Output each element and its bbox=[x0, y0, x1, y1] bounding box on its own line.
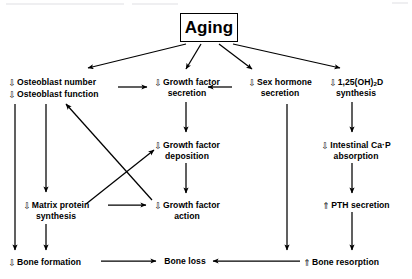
node-matrix-protein-line1: ⇩Matrix protein bbox=[6, 199, 106, 211]
node-osteoblast: ⇩Osteoblast number ⇩Osteoblast function bbox=[8, 76, 99, 100]
decrease-icon: ⇩ bbox=[154, 77, 161, 88]
decrease-icon: ⇩ bbox=[248, 77, 255, 88]
node-intestinal-absorption-line1: ⇩Intestinal Ca·P bbox=[310, 139, 402, 151]
decrease-icon: ⇩ bbox=[154, 140, 161, 151]
node-gf-deposition: ⇩Growth factor deposition bbox=[146, 139, 228, 162]
node-intestinal-absorption-line1-text: Intestinal Ca·P bbox=[330, 140, 390, 150]
node-bone-resorption-line1: ⇑Bone resorption bbox=[303, 256, 379, 268]
node-vitamin-d-formula-sub: 2 bbox=[373, 80, 377, 87]
node-vitamin-d: ⇩1,25(OH)2D synthesis bbox=[318, 76, 394, 99]
node-aging: Aging bbox=[180, 13, 238, 42]
increase-icon: ⇑ bbox=[303, 257, 310, 268]
node-sex-hormone-line2: secretion bbox=[240, 88, 320, 99]
node-bone-formation-line1: ⇩Bone formation bbox=[8, 256, 81, 268]
node-bone-formation-text: Bone formation bbox=[17, 257, 81, 267]
node-bone-loss: Bone loss bbox=[158, 256, 212, 267]
node-bone-resorption: ⇑Bone resorption bbox=[303, 256, 379, 268]
node-gf-deposition-line2: deposition bbox=[146, 151, 228, 162]
edge-aging-osteoblast bbox=[88, 44, 186, 68]
node-osteoblast-line1-text: Osteoblast number bbox=[17, 77, 96, 87]
node-vitamin-d-formula-a: 1,25(OH) bbox=[338, 77, 374, 87]
node-gf-action-line2: action bbox=[146, 211, 228, 222]
node-vitamin-d-line1: ⇩1,25(OH)2D bbox=[318, 76, 394, 88]
edge-matrixprotein-gfdeposition bbox=[86, 150, 154, 204]
decrease-icon: ⇩ bbox=[8, 77, 15, 88]
node-gf-action: ⇩Growth factor action bbox=[146, 199, 228, 222]
node-sex-hormone-line1: ⇩Sex hormone bbox=[240, 76, 320, 88]
node-bone-resorption-text: Bone resorption bbox=[312, 257, 379, 267]
decrease-icon: ⇩ bbox=[329, 77, 336, 88]
node-aging-label: Aging bbox=[185, 19, 234, 36]
node-matrix-protein-line2: synthesis bbox=[6, 211, 106, 222]
node-gf-deposition-line1: ⇩Growth factor bbox=[146, 139, 228, 151]
node-intestinal-absorption: ⇩Intestinal Ca·P absorption bbox=[310, 139, 402, 162]
node-bone-formation: ⇩Bone formation bbox=[8, 256, 81, 268]
increase-icon: ⇑ bbox=[323, 200, 330, 211]
node-pth-secretion: ⇑PTH secretion bbox=[310, 199, 402, 211]
node-osteoblast-line2-text: Osteoblast function bbox=[17, 89, 99, 99]
decrease-icon: ⇩ bbox=[8, 257, 15, 268]
edge-aging-gfsecretion bbox=[186, 44, 201, 69]
node-osteoblast-line1: ⇩Osteoblast number bbox=[8, 76, 99, 88]
decrease-icon: ⇩ bbox=[23, 200, 30, 211]
node-gf-action-line1: ⇩Growth factor bbox=[146, 199, 228, 211]
node-matrix-protein-line1-text: Matrix protein bbox=[32, 200, 90, 210]
decrease-icon: ⇩ bbox=[154, 200, 161, 211]
node-bone-loss-text: Bone loss bbox=[158, 256, 212, 267]
decrease-icon: ⇩ bbox=[8, 89, 15, 100]
node-matrix-protein: ⇩Matrix protein synthesis bbox=[6, 199, 106, 222]
decrease-icon: ⇩ bbox=[322, 140, 329, 151]
node-gf-deposition-line1-text: Growth factor bbox=[163, 140, 220, 150]
edge-aging-vitd bbox=[233, 44, 340, 68]
node-pth-secretion-line1-text: PTH secretion bbox=[331, 200, 389, 210]
node-gf-secretion-line2: secretion bbox=[146, 88, 228, 99]
node-osteoblast-line2: ⇩Osteoblast function bbox=[8, 88, 99, 100]
node-pth-secretion-line1: ⇑PTH secretion bbox=[310, 199, 402, 211]
node-gf-secretion-line1-text: Growth factor bbox=[163, 77, 220, 87]
node-sex-hormone: ⇩Sex hormone secretion bbox=[240, 76, 320, 99]
node-gf-secretion-line1: ⇩Growth factor bbox=[146, 76, 228, 88]
node-vitamin-d-line2: synthesis bbox=[318, 88, 394, 99]
node-gf-secretion: ⇩Growth factor secretion bbox=[146, 76, 228, 99]
node-intestinal-absorption-line2: absorption bbox=[310, 151, 402, 162]
diagram-root: Aging ⇩Osteoblast number ⇩Osteoblast fun… bbox=[0, 0, 412, 279]
node-sex-hormone-line1-text: Sex hormone bbox=[257, 77, 312, 87]
node-gf-action-line1-text: Growth factor bbox=[163, 200, 220, 210]
node-vitamin-d-formula-b: D bbox=[377, 77, 383, 87]
